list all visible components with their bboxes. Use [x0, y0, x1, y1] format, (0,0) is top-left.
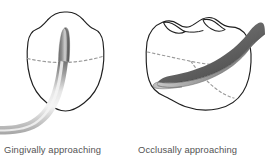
caption-occlusally-approaching: Occlusally approaching: [133, 144, 265, 156]
panel-gingivally-approaching: Gingivally approaching: [0, 0, 132, 163]
gingival-approach-diagram: [0, 0, 132, 145]
panel-occlusally-approaching: Occlusally approaching: [133, 0, 265, 163]
occlusal-approach-diagram: [133, 0, 265, 145]
figure-root: Gingivally approaching: [0, 0, 265, 163]
caption-gingivally-approaching: Gingivally approaching: [0, 144, 132, 156]
